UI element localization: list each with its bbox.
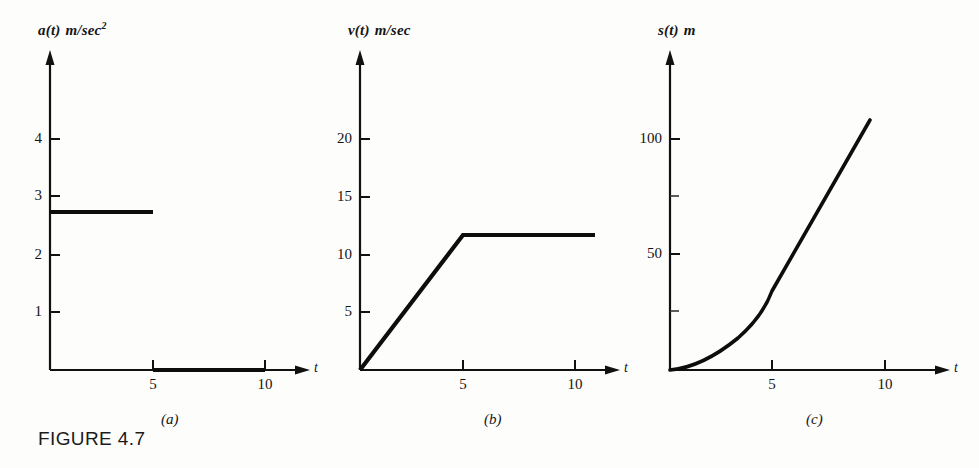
y-axis-label-exponent-a: 2	[101, 20, 106, 31]
panel-caption-c: (c)	[806, 411, 823, 428]
x-tick-label-5-b: 5	[449, 376, 477, 393]
data-curve-c	[670, 120, 870, 370]
y-axis-label-fn-a: a(t)	[38, 22, 60, 38]
x-axis-arrowhead-b	[605, 366, 620, 375]
x-tick-label-10-c: 10	[871, 376, 899, 393]
y-axis-arrowhead-a	[46, 50, 55, 65]
panel-b-plot	[310, 0, 640, 468]
panel-c: s(t)m t 50 100 5 10 (c)	[620, 0, 979, 468]
x-tick-label-10-a: 10	[251, 376, 279, 393]
y-tick-label-2-a: 2	[16, 246, 42, 263]
y-tick-label-10-b: 10	[324, 246, 352, 263]
x-axis-arrowhead-c	[935, 366, 950, 375]
panel-caption-a: (a)	[161, 411, 179, 428]
y-axis-arrowhead-b	[356, 50, 365, 65]
y-tick-label-20-b: 20	[324, 130, 352, 147]
y-tick-label-5-b: 5	[324, 303, 352, 320]
y-axis-label-unit-a: m/sec	[65, 22, 101, 38]
y-axis-label-a: a(t)m/sec2	[38, 22, 107, 39]
panel-a-plot	[0, 0, 330, 468]
y-tick-label-4-a: 4	[16, 130, 42, 147]
panel-a: a(t)m/sec2 t 1 2 3 4 5 10 (a)	[0, 0, 330, 468]
data-curve-b	[360, 235, 595, 370]
panel-c-plot	[620, 0, 979, 468]
figure-caption: FIGURE 4.7	[38, 428, 145, 450]
y-axis-label-unit-b: m/sec	[375, 22, 411, 38]
x-axis-label-c: t	[954, 360, 958, 376]
x-tick-label-5-c: 5	[758, 376, 786, 393]
y-axis-label-b: v(t)m/sec	[348, 22, 411, 39]
y-tick-label-100-c: 100	[626, 130, 662, 147]
figure-container: a(t)m/sec2 t 1 2 3 4 5 10 (a)	[0, 0, 979, 468]
x-tick-label-5-a: 5	[139, 376, 167, 393]
y-axis-label-fn-b: v(t)	[348, 22, 370, 38]
x-axis-arrowhead-a	[295, 366, 310, 375]
x-tick-label-10-b: 10	[561, 376, 589, 393]
y-tick-label-1-a: 1	[16, 303, 42, 320]
panel-b: v(t)m/sec t 5 10 15 20 5 10 (b)	[310, 0, 640, 468]
y-tick-label-50-c: 50	[626, 245, 662, 262]
panel-caption-b: (b)	[484, 411, 502, 428]
y-axis-label-c: s(t)m	[658, 22, 696, 39]
y-tick-label-15-b: 15	[324, 188, 352, 205]
y-tick-label-3-a: 3	[16, 187, 42, 204]
y-axis-label-fn-c: s(t)	[658, 22, 679, 38]
y-axis-arrowhead-c	[666, 50, 675, 65]
y-axis-label-unit-c: m	[684, 22, 696, 38]
